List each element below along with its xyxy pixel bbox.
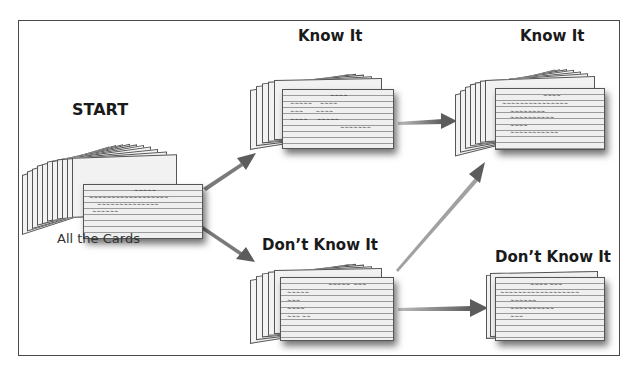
card-text: ~~~~ [287,305,305,311]
card-deck-start: ~~~~~ ~~~~~~~~~~~~~~~~~~ ~~~~~~~~~~~~~~ … [22,122,202,244]
card-text: ~~~~ [330,92,348,98]
card-text: ~~~~ ~~~~~ [290,116,339,122]
arrow-start-to-dont-know [201,226,255,262]
dont-know-it-label-2: Don’t Know It [495,248,611,266]
card-deck-know-2: ~~~~ ~~~~~~~~~~~~~~~ ~~~~~~~~ ~~~~~~~~~~… [455,52,615,162]
card-text: ~~~ [510,313,523,319]
dont-know-it-label-1: Don’t Know It [262,236,378,254]
arrow-know-to-know [398,113,457,129]
card-text: ~~~~~ [134,187,156,193]
card-text: ~~~ ~~ [287,313,311,319]
card-text: ~~~~~~~~~~~~~~ [97,201,159,207]
card-text: ~~~~~~~~~~~~~~~~~~ [500,289,579,295]
card-text: ~~~ [287,297,300,303]
card-text: ~~~~~ ~~~~ [290,100,337,106]
card-text: ~~~~~~~~~~~~~~~ [502,100,568,106]
card-text: ~~~~~~~~~~ [510,305,554,311]
know-it-label-2: Know It [520,27,584,45]
know-it-label-1: Know It [298,27,362,45]
arrow-dont-know-to-know [396,162,485,272]
card-text: ~~~ ~~~~ [290,108,333,114]
card-deck-know-1: ~~~~ ~~~~~ ~~~~ ~~~ ~~~~ ~~~~ ~~~~~ ~~~~… [250,62,395,160]
arrow-start-to-know [203,153,256,191]
card-text: ~~~~ ~~~ [530,281,562,287]
arrow-dont-know-to-dont-know [398,299,488,317]
card-text: ~~~~~~ [92,208,118,214]
card-text: ~~~~~~ [510,297,536,303]
card-deck-dont-know-1: ~~~~~ ~~~ ~~~~~ ~~~ ~~~~ ~~~ ~~ [250,262,395,360]
card-text: ~~~~~~~~~~~~~~~~~~ [89,194,168,200]
card-text: ~~~~ [543,92,561,98]
card-deck-dont-know-2: ~~~~ ~~~ ~~~~~~~~~~~~~~~~~~ ~~~~~~ ~~~~~… [480,268,620,350]
start-caption: All the Cards [57,231,140,246]
card-text: ~~~~~ ~~~ [328,281,366,287]
start-label: START [72,100,128,119]
card-text: ~~~~~ [287,289,309,295]
card-text: ~~~~~~~ [340,124,371,130]
card-text: ~~~~ [510,122,528,128]
card-text: ~~~~~~~~~~~ [510,129,559,135]
card-text: ~~~~~~~~~~ [510,114,554,120]
